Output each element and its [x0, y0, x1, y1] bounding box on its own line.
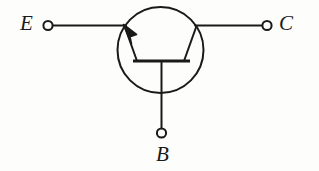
- emitter-terminal-node: [43, 21, 52, 30]
- collector-slant: [184, 26, 197, 61]
- base-label: B: [156, 144, 169, 165]
- emitter-label: E: [20, 13, 33, 34]
- transistor-symbol-figure: E C B: [0, 0, 319, 171]
- emitter-arrow: [124, 25, 137, 45]
- collector-label: C: [279, 13, 293, 34]
- base-terminal-node: [157, 128, 166, 137]
- collector-terminal-node: [262, 21, 271, 30]
